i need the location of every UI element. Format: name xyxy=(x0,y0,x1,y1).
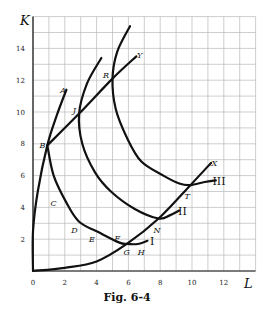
y-tick-label: 6 xyxy=(21,172,26,180)
x-tick-label: 4 xyxy=(94,279,99,287)
x-tick-label: 12 xyxy=(219,279,228,287)
x-tick-label: 10 xyxy=(188,279,197,287)
curves xyxy=(33,26,216,271)
y-tick-label: 2 xyxy=(21,236,25,244)
label-b: B xyxy=(39,141,46,150)
label-h: H xyxy=(137,248,146,257)
label-e: E xyxy=(88,235,95,244)
label-i: I xyxy=(150,235,154,248)
curve-isoquant-iii xyxy=(112,26,215,185)
label-j: J xyxy=(71,106,77,115)
label-y: Y xyxy=(137,51,143,60)
label-t: T xyxy=(185,192,191,201)
label-n: N xyxy=(153,226,162,235)
x-tick-label: 8 xyxy=(158,279,162,287)
isoquant-chart: 0246810122468101214 ABJRYCDEFGHNTXIIIIII… xyxy=(0,0,271,315)
curve-isoquant-ii xyxy=(79,58,179,219)
label-x: X xyxy=(210,159,217,168)
x-tick-label: 0 xyxy=(31,279,35,287)
y-tick-label: 12 xyxy=(16,77,25,85)
label-d: D xyxy=(70,226,78,235)
y-tick-label: 4 xyxy=(21,204,26,212)
x-tick-label: 6 xyxy=(126,279,131,287)
tick-labels: 0246810122468101214 xyxy=(16,45,228,287)
point-labels: ABJRYCDEFGHNTXIIIIII xyxy=(39,51,226,257)
y-tick-label: 10 xyxy=(16,109,25,117)
x-tick-label: 2 xyxy=(63,279,67,287)
label-c: C xyxy=(51,199,57,208)
x-axis-label: L xyxy=(243,276,253,291)
label-g: G xyxy=(124,248,131,257)
label-f: F xyxy=(113,234,120,243)
curve-isoquant-i xyxy=(47,145,147,244)
label-a: A xyxy=(59,86,66,95)
y-tick-label: 14 xyxy=(16,45,25,53)
y-tick-label: 8 xyxy=(21,140,25,148)
grid-lines xyxy=(33,17,256,271)
label-ii: II xyxy=(178,205,187,218)
curve-ridge-line-by xyxy=(47,56,136,145)
label-iii: III xyxy=(213,175,226,188)
figure-caption: Fig. 6-4 xyxy=(103,291,151,304)
curve-ridge-line-0y xyxy=(33,90,67,271)
y-axis-label: K xyxy=(19,13,31,28)
label-r: R xyxy=(102,71,109,80)
